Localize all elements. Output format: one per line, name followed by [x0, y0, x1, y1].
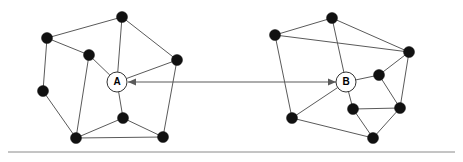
- graph-figure: A B: [0, 0, 463, 162]
- graph-edge: [47, 38, 89, 55]
- graph-node[interactable]: [368, 133, 379, 144]
- graph-edge: [118, 17, 122, 72]
- graph-node[interactable]: [117, 12, 128, 23]
- graph-node[interactable]: [42, 33, 53, 44]
- graph-edge: [76, 118, 123, 138]
- graph-node[interactable]: [270, 30, 281, 41]
- graph-edge: [76, 137, 163, 138]
- graph-node[interactable]: [348, 104, 359, 115]
- graph-node[interactable]: [84, 50, 95, 61]
- graph-edge: [275, 18, 332, 35]
- graph-edge: [353, 108, 400, 109]
- graph-node[interactable]: [327, 13, 338, 24]
- graph-node[interactable]: [287, 113, 298, 124]
- graph-node[interactable]: [71, 133, 82, 144]
- arrow-head-right: [328, 78, 336, 85]
- graph-node[interactable]: [38, 86, 49, 97]
- graph-edge: [122, 17, 177, 60]
- graph-edge: [379, 75, 400, 108]
- bidirectional-link: [128, 78, 336, 85]
- graph-edge: [163, 60, 177, 137]
- graph-node[interactable]: [158, 132, 169, 143]
- graph-edge: [292, 88, 338, 118]
- graph-edge: [43, 38, 47, 91]
- hub-node-b[interactable]: B: [336, 72, 356, 92]
- graph-node[interactable]: [404, 47, 415, 58]
- figure-canvas: A B: [0, 0, 463, 162]
- graph-edge: [126, 60, 177, 79]
- graph-edge: [373, 108, 400, 138]
- graph-edge: [47, 17, 122, 38]
- graph-edge: [332, 18, 344, 72]
- hub-node-label: B: [342, 76, 349, 87]
- graph-edge: [123, 118, 163, 137]
- graph-node[interactable]: [118, 113, 129, 124]
- hub-node-a[interactable]: A: [107, 72, 127, 92]
- graph-node[interactable]: [374, 70, 385, 81]
- arrow-head-left: [128, 78, 136, 85]
- graph-node[interactable]: [395, 103, 406, 114]
- graph-edge: [275, 35, 292, 118]
- hub-node-label: A: [113, 76, 120, 87]
- graph-node[interactable]: [172, 55, 183, 66]
- graph-edge: [76, 55, 89, 138]
- graph-edge: [43, 91, 76, 138]
- graph-edge: [400, 52, 409, 108]
